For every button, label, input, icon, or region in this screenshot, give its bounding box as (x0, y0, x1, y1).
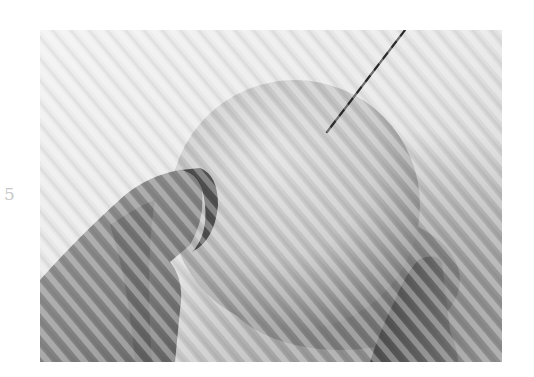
photograph (40, 30, 502, 362)
photo-illustration (40, 30, 502, 362)
page-number: 5 (4, 186, 15, 203)
